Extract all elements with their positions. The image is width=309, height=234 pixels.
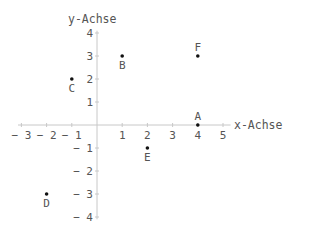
y-tick-label: − 3 [73,188,93,201]
point-marker [196,54,200,58]
point-b: B [119,54,126,72]
y-tick-label: − 4 [73,211,93,224]
point-d: D [43,192,50,210]
y-tick-label: − 2 [73,165,93,178]
point-label: B [119,59,126,72]
point-marker [146,146,150,150]
point-f: F [194,41,201,58]
x-tick-label: − 3 [11,129,31,142]
point-marker [70,77,74,81]
point-label: A [194,110,201,123]
x-tick-label: − 2 [37,129,57,142]
x-tick-label: 2 [144,129,151,142]
coordinate-plot: − 3− 2− 1123454321− 1− 2− 3− 4 ABCDEF x-… [0,0,309,234]
point-e: E [144,146,151,164]
point-marker [196,123,200,127]
y-tick-label: 3 [86,50,93,63]
point-label: E [144,151,151,164]
point-marker [120,54,124,58]
y-tick-label: 4 [86,27,93,40]
point-a: A [194,110,201,127]
y-tick-label: − 1 [73,142,93,155]
y-tick-label: 1 [86,96,93,109]
x-axis-title: x-Achse [234,118,283,132]
point-marker [45,192,49,196]
x-tick-label: − 1 [62,129,82,142]
y-axis-title: y-Achse [68,12,117,26]
point-label: C [68,82,75,95]
point-label: D [43,197,50,210]
y-tick-label: 2 [86,73,93,86]
point-c: C [68,77,75,95]
x-tick-label: 3 [169,129,176,142]
x-tick-label: 1 [119,129,126,142]
point-label: F [194,41,201,54]
x-tick-label: 4 [194,129,201,142]
x-tick-label: 5 [220,129,227,142]
